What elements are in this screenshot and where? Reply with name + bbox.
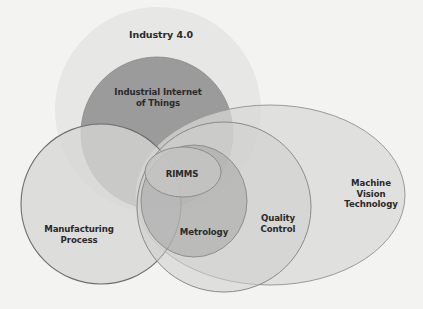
label-rimms: RIMMS [160,169,204,180]
label-line: Process [40,235,118,246]
label-iiot: Industrial Internet of Things [110,87,206,108]
venn-diagram: Industry 4.0 Industrial Internet of Thin… [0,0,423,309]
label-metrology: Metrology [174,227,234,238]
label-machine-vision-technology: Machine Vision Technology [336,178,406,210]
label-line: Industry 4.0 [126,30,196,41]
label-line: of Things [110,98,206,109]
label-line: Manufacturing [40,224,118,235]
label-industry-4-0: Industry 4.0 [126,30,196,41]
label-line: Technology [336,199,406,210]
venn-shapes [0,0,423,309]
label-manufacturing-process: Manufacturing Process [40,224,118,245]
label-line: Metrology [174,227,234,238]
label-line: RIMMS [160,169,204,180]
label-line: Industrial Internet [110,87,206,98]
label-line: Machine [336,178,406,189]
label-line: Vision [336,189,406,200]
label-quality-control: Quality Control [253,213,303,234]
label-line: Control [253,224,303,235]
label-line: Quality [253,213,303,224]
